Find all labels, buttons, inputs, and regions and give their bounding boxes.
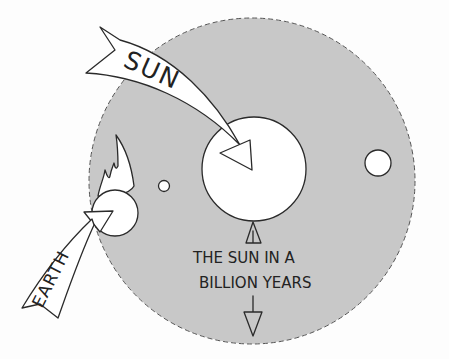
caption-line-1: THE SUN IN A xyxy=(192,249,296,267)
caption-line-2: BILLION YEARS xyxy=(199,274,312,292)
current-sun-circle xyxy=(202,117,306,221)
inner-planet-circle xyxy=(159,181,170,192)
outer-planet-circle xyxy=(365,150,391,176)
sun-expansion-diagram: EARTH SUN THE SUN IN A BILLION YEARS xyxy=(0,0,449,359)
